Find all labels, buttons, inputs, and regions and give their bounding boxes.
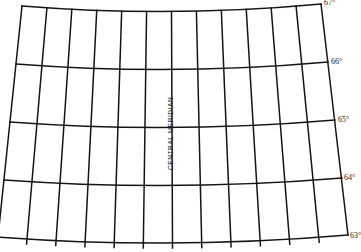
meridian-line: [56, 9, 72, 245]
meridian-line: [85, 10, 97, 246]
parallel-label-65: 65°: [338, 116, 349, 124]
parallel-label-66: 66°: [331, 58, 342, 66]
parallel-label-67: 67°: [324, 0, 335, 7]
meridian-line: [196, 11, 201, 247]
central-meridian-label: CENTRAL MERIDIAN: [167, 97, 174, 170]
parallel-line-63: [0, 235, 348, 243]
meridian-line: [143, 11, 146, 247]
meridian-line: [27, 8, 47, 244]
meridian-line: [114, 11, 122, 247]
parallel-line-67: [22, 4, 321, 12]
meridians: [0, 4, 348, 248]
meridian-line: [246, 9, 260, 245]
meridian-line: [271, 8, 290, 244]
parallel-label-64: 64°: [344, 174, 355, 182]
parallel-line-64: [4, 178, 342, 186]
parallel-label-63: 63°: [350, 232, 361, 240]
meridian-line: [296, 6, 319, 242]
meridian-line: [221, 10, 231, 246]
parallels: [0, 4, 348, 243]
